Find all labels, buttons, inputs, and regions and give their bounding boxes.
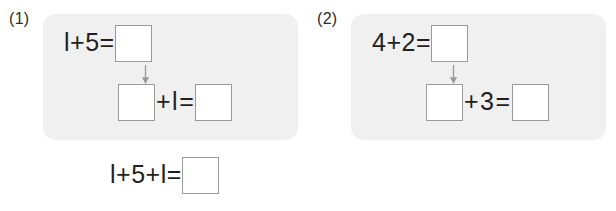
problem-2: (2) 4+2= + 3 = 4+2+3= bbox=[308, 0, 616, 211]
problem-1: (1) l+5= + l = l+5+l= bbox=[0, 0, 308, 211]
problem-1-summary-expression: l+5+l= bbox=[110, 162, 182, 189]
problem-1-step2-equals: = bbox=[178, 89, 195, 116]
problem-1-summary-row: l+5+l= bbox=[110, 157, 219, 194]
problem-2-step2-operator: + bbox=[463, 89, 480, 116]
down-arrow-icon bbox=[140, 65, 151, 85]
problem-2-panel: 4+2= + 3 = bbox=[351, 14, 606, 140]
problem-1-summary-answer-box[interactable] bbox=[182, 157, 219, 194]
problem-1-step1-expression: l+5= bbox=[64, 30, 115, 57]
problem-2-step2-row: + 3 = bbox=[426, 84, 549, 121]
problem-1-panel: l+5= + l = bbox=[43, 14, 298, 140]
problem-2-step1-answer-box[interactable] bbox=[431, 25, 468, 62]
problem-2-step1-row: 4+2= bbox=[372, 25, 468, 62]
problem-2-step2-equals: = bbox=[495, 89, 512, 116]
problem-2-step1-expression: 4+2= bbox=[372, 30, 431, 57]
problem-1-label: (1) bbox=[9, 11, 29, 27]
down-arrow-icon bbox=[448, 65, 459, 85]
problem-2-step2-addend: 3 bbox=[480, 89, 494, 116]
worksheet: (1) l+5= + l = l+5+l= (2) bbox=[0, 0, 616, 211]
problem-1-step2-operator: + bbox=[155, 89, 172, 116]
problem-2-step2-answer-box[interactable] bbox=[512, 84, 549, 121]
problem-1-step2-row: + l = bbox=[118, 84, 232, 121]
problem-1-step2-answer-box[interactable] bbox=[195, 84, 232, 121]
problem-2-label: (2) bbox=[317, 11, 337, 27]
problem-1-step1-answer-box[interactable] bbox=[115, 25, 152, 62]
problem-2-step2-carried-box[interactable] bbox=[426, 84, 463, 121]
problem-1-step2-carried-box[interactable] bbox=[118, 84, 155, 121]
problem-1-step1-row: l+5= bbox=[64, 25, 152, 62]
